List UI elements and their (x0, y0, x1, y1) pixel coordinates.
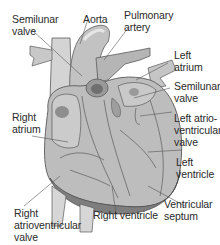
label-left-atrioventricular-valve: Left atrio- ventricular valve (174, 112, 220, 148)
label-line: Semilunar (174, 80, 220, 92)
label-line: atrioventricular (14, 219, 81, 231)
label-right-atrium: Right atrium (12, 111, 41, 135)
label-line: Aorta (83, 13, 108, 25)
label-line: valve (14, 231, 81, 243)
label-line: ventricular (174, 124, 220, 136)
label-line: valve (174, 92, 220, 104)
label-line: Semilunar (12, 13, 58, 25)
label-line: atrium (12, 123, 41, 135)
label-ventricular-septum: Ventricular septum (164, 198, 213, 222)
aortic-valve (86, 79, 108, 97)
label-line: Left atrio- (174, 112, 220, 124)
label-line: valve (174, 136, 220, 148)
label-line: Pulmonary (124, 9, 173, 21)
label-left-atrium: Left atrium (174, 49, 203, 73)
label-aorta: Aorta (83, 13, 108, 25)
label-left-ventricle: Left ventricle (176, 156, 214, 180)
label-line: Right (14, 207, 81, 219)
label-line: Left (174, 49, 203, 61)
label-line: valve (12, 25, 58, 37)
label-line: septum (164, 210, 213, 222)
right-pulmonary-veins (30, 46, 52, 66)
label-line: Left (176, 156, 214, 168)
label-right-atrioventricular-valve: Right atrioventricular valve (14, 207, 81, 243)
label-semilunar-valve-left: Semilunar valve (12, 13, 58, 37)
label-semilunar-valve-right: Semilunar valve (174, 80, 220, 104)
label-pulmonary-artery: Pulmonary artery (124, 9, 173, 33)
label-line: Right ventricle (93, 209, 158, 221)
label-line: artery (124, 21, 173, 33)
label-line: Right (12, 111, 41, 123)
label-line: atrium (174, 61, 203, 73)
label-line: ventricle (176, 168, 214, 180)
label-line: Ventricular (164, 198, 213, 210)
label-right-ventricle: Right ventricle (93, 209, 158, 221)
